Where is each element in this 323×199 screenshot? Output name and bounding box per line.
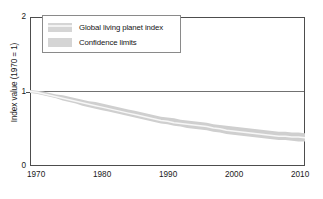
x-tick-label-1980: 1980 <box>93 170 111 179</box>
living-planet-index-chart: Index value (1970 = 1) 0 1 2 1970 1980 1… <box>0 0 323 199</box>
y-tick-label-0: 0 <box>12 162 26 170</box>
legend-label-index: Global living planet index <box>79 23 163 32</box>
x-tick-label-1990: 1990 <box>159 170 177 179</box>
x-tick-label-2000: 2000 <box>225 170 243 179</box>
legend-label-confidence: Confidence limits <box>79 38 137 47</box>
y-axis-label: Index value (1970 = 1) <box>10 18 19 148</box>
chart-legend: Global living planet index Confidence li… <box>42 15 181 53</box>
confidence-band <box>30 90 305 141</box>
x-tick-label-1970: 1970 <box>27 170 45 179</box>
legend-item-confidence: Confidence limits <box>48 35 175 50</box>
legend-swatch-confidence-icon <box>48 38 72 47</box>
legend-swatch-index-icon <box>48 23 72 32</box>
legend-item-index: Global living planet index <box>48 20 175 35</box>
y-tick-label-2: 2 <box>12 13 26 21</box>
x-tick-label-2010: 2010 <box>291 170 309 179</box>
y-tick-label-1: 1 <box>12 88 26 96</box>
